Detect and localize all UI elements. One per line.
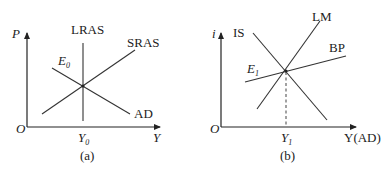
ad-label: AD — [134, 106, 153, 121]
diagram-b-is-lm-bp: i IS LM BP E1 O Y1 Y(AD) (b) — [210, 9, 381, 163]
is-label: IS — [233, 25, 245, 40]
sras-curve — [42, 50, 135, 114]
equilibrium-point-e1 — [284, 69, 287, 72]
e0-label: E0 — [57, 53, 70, 70]
i-axis-label: i — [212, 26, 216, 41]
sras-label: SRAS — [127, 35, 160, 50]
p-axis-label: P — [11, 26, 20, 41]
caption-b: (b) — [280, 148, 295, 163]
figure: P LRAS SRAS AD E0 O Y Y0 (a) i IS LM BP … — [0, 0, 385, 169]
y-ad-axis-label: Y(AD) — [344, 130, 381, 145]
y-axis-label-a: Y — [153, 130, 162, 145]
equilibrium-point-e0 — [81, 84, 84, 87]
bp-curve — [245, 56, 346, 82]
y1-label: Y1 — [281, 130, 292, 147]
y0-label: Y0 — [78, 130, 89, 147]
lm-label: LM — [312, 9, 332, 24]
diagram-a-ad-as: P LRAS SRAS AD E0 O Y Y0 (a) — [11, 22, 162, 163]
e1-label: E1 — [246, 61, 259, 78]
ad-curve — [52, 68, 130, 114]
lras-label: LRAS — [71, 22, 104, 37]
caption-a: (a) — [80, 148, 94, 163]
bp-label: BP — [329, 40, 345, 55]
origin-label-b: O — [210, 121, 220, 136]
is-curve — [253, 33, 327, 120]
origin-label-a: O — [16, 121, 26, 136]
